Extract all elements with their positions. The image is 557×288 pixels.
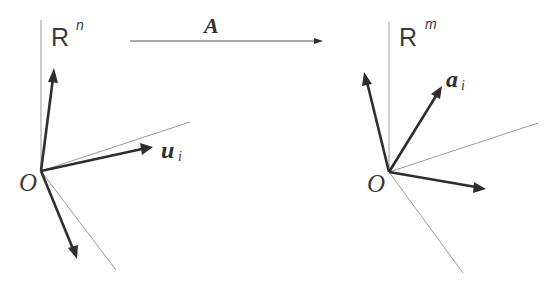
codomain-space-label: R <box>399 23 417 51</box>
right-lower-right-axis <box>389 172 463 273</box>
left-down-vector <box>41 171 73 249</box>
map-arrow-head <box>314 38 323 44</box>
a-i-vector-arrowhead <box>431 86 442 99</box>
right-up-left-vector-arrowhead <box>362 72 372 86</box>
a-i-label: a <box>446 66 458 92</box>
right-vector-arrowhead <box>473 182 486 193</box>
right-origin-label: O <box>367 170 385 197</box>
u-i-vector <box>41 149 142 171</box>
right-upper-right-axis <box>389 123 538 172</box>
u-i-vector-arrowhead <box>140 143 153 155</box>
linear-map-diagram: A R n O u i R m O a i <box>0 0 557 288</box>
u-i-subscript: i <box>178 149 182 164</box>
left-up-vector <box>41 78 53 171</box>
a-i-vector <box>389 96 436 172</box>
codomain-space: R m O a i <box>362 16 538 273</box>
domain-space: R n O u i <box>19 17 190 270</box>
domain-space-label: R <box>51 23 69 51</box>
left-down-vector-arrowhead <box>68 245 78 259</box>
right-up-left-vector <box>367 82 389 172</box>
left-lower-right-axis <box>41 171 116 270</box>
a-i-subscript: i <box>461 78 465 93</box>
domain-space-superscript: n <box>76 17 84 33</box>
right-vector <box>389 172 476 187</box>
left-origin-label: O <box>19 169 37 196</box>
map-label: A <box>202 13 219 38</box>
left-up-vector-arrowhead <box>48 68 58 83</box>
codomain-space-superscript: m <box>425 16 437 32</box>
u-i-label: u <box>161 137 174 163</box>
map-arrow: A <box>130 13 323 44</box>
